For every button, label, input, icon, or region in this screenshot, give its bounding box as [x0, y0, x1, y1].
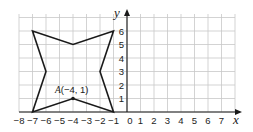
- x-tick-label: −8: [14, 115, 25, 126]
- x-tick-label: −4: [68, 115, 79, 126]
- x-tick-label: −3: [81, 115, 92, 126]
- x-tick-label: −2: [95, 115, 106, 126]
- x-tick-label: −5: [54, 115, 65, 126]
- x-tick-label: −7: [27, 115, 38, 126]
- y-tick-label: 4: [119, 53, 124, 64]
- axes: x y: [19, 5, 242, 127]
- x-axis-name: x: [232, 112, 239, 127]
- y-tick-label: 6: [119, 26, 124, 37]
- x-tick-label: −6: [41, 115, 52, 126]
- x-tick-label: 1: [138, 115, 143, 126]
- y-tick-label: 1: [119, 93, 124, 104]
- y-tick-labels: 123456: [119, 26, 124, 105]
- y-tick-label: 3: [119, 66, 124, 77]
- x-tick-label: 6: [205, 115, 210, 126]
- x-tick-label: −1: [108, 115, 119, 126]
- coordinate-diagram: x y −8−7−6−5−4−3−2−101234567 123456 A(−4…: [0, 0, 253, 132]
- x-tick-labels: −8−7−6−5−4−3−2−101234567: [14, 115, 225, 126]
- y-axis-name: y: [112, 5, 120, 20]
- y-tick-label: 2: [119, 80, 124, 91]
- x-tick-label: 3: [165, 115, 170, 126]
- y-tick-label: 5: [119, 39, 124, 50]
- y-axis-arrow-icon: [124, 9, 130, 16]
- x-tick-label: 0: [127, 115, 132, 126]
- x-tick-label: 4: [178, 115, 183, 126]
- x-tick-label: 7: [219, 115, 224, 126]
- point-a-label: A(−4, 1): [54, 84, 89, 95]
- point-a-coords: (−4, 1): [61, 84, 89, 95]
- point-a-marker: [71, 97, 75, 101]
- x-tick-label: 5: [192, 115, 197, 126]
- x-tick-label: 2: [151, 115, 156, 126]
